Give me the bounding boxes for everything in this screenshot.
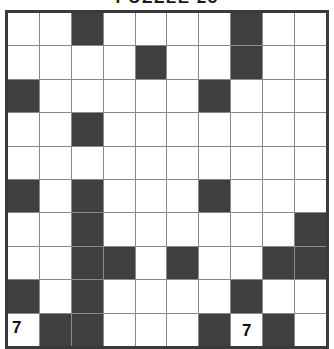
grid-cell-block: [231, 46, 262, 78]
grid-cell-empty[interactable]: [167, 80, 198, 112]
grid-cell-empty[interactable]: [263, 180, 294, 212]
grid-cell-empty[interactable]: [104, 113, 135, 145]
grid-cell-block: [72, 213, 103, 245]
grid-cell-empty[interactable]: [8, 213, 39, 245]
grid-cell-empty[interactable]: [136, 113, 167, 145]
grid-cell-empty[interactable]: [295, 113, 326, 145]
grid-cell-empty[interactable]: [295, 280, 326, 312]
grid-cell-empty[interactable]: [231, 247, 262, 279]
grid-cell-block: [8, 280, 39, 312]
grid-cell-empty[interactable]: [167, 147, 198, 179]
grid-cell-empty[interactable]: [263, 46, 294, 78]
grid-cell-block: [199, 80, 230, 112]
grid-cell-empty[interactable]: [295, 80, 326, 112]
grid-cell-empty[interactable]: [136, 180, 167, 212]
page-title: PUZZLE 25: [0, 0, 334, 8]
grid-cell-block: [72, 314, 103, 346]
grid-cell-empty[interactable]: [199, 213, 230, 245]
grid-cell-block: [136, 46, 167, 78]
grid-cell-empty[interactable]: [263, 213, 294, 245]
grid-cell-empty[interactable]: [295, 13, 326, 45]
grid-cell-empty[interactable]: [263, 280, 294, 312]
grid-cell-empty[interactable]: [136, 314, 167, 346]
grid-cell-empty[interactable]: [136, 247, 167, 279]
grid-cell-empty[interactable]: [72, 46, 103, 78]
grid-cell-empty[interactable]: [40, 147, 71, 179]
puzzle-grid: 77: [8, 13, 326, 346]
clue-number: 7: [231, 321, 262, 338]
grid-cell-empty[interactable]: [40, 46, 71, 78]
grid-cell-empty[interactable]: [136, 213, 167, 245]
grid-cell-empty[interactable]: [136, 280, 167, 312]
grid-cell-block: [72, 280, 103, 312]
grid-cell-empty[interactable]: [104, 46, 135, 78]
grid-cell-block: [8, 80, 39, 112]
grid-cell-empty[interactable]: [136, 13, 167, 45]
grid-cell-empty[interactable]: [104, 180, 135, 212]
grid-cell-empty[interactable]: [167, 213, 198, 245]
grid-cell-empty[interactable]: [40, 80, 71, 112]
grid-cell-empty[interactable]: [295, 180, 326, 212]
grid-cell-empty[interactable]: [167, 280, 198, 312]
grid-cell-empty[interactable]: [263, 80, 294, 112]
grid-cell-empty[interactable]: [104, 80, 135, 112]
grid-cell-empty[interactable]: [199, 280, 230, 312]
grid-cell-empty[interactable]: [72, 147, 103, 179]
grid-cell-empty[interactable]: [40, 247, 71, 279]
grid-cell-empty[interactable]: [40, 180, 71, 212]
grid-cell-empty[interactable]: [231, 180, 262, 212]
grid-cell-empty[interactable]: [167, 46, 198, 78]
grid-cell-empty[interactable]: [40, 280, 71, 312]
grid-cell-block: [40, 314, 71, 346]
grid-cell-block: [72, 113, 103, 145]
grid-cell-empty[interactable]: [8, 46, 39, 78]
grid-cell-empty[interactable]: 7: [8, 314, 39, 346]
grid-cell-block: [295, 213, 326, 245]
grid-cell-block: [263, 314, 294, 346]
grid-cell-empty[interactable]: [199, 113, 230, 145]
grid-cell-empty[interactable]: [199, 13, 230, 45]
grid-cell-block: [263, 247, 294, 279]
grid-cell-block: [295, 247, 326, 279]
grid-cell-block: [72, 247, 103, 279]
grid-cell-empty[interactable]: [295, 147, 326, 179]
grid-cell-empty[interactable]: [104, 280, 135, 312]
grid-cell-empty[interactable]: [231, 80, 262, 112]
grid-cell-empty[interactable]: [136, 147, 167, 179]
grid-cell-empty[interactable]: [199, 46, 230, 78]
grid-cell-empty[interactable]: [40, 213, 71, 245]
grid-cell-empty[interactable]: [104, 314, 135, 346]
grid-cell-block: [199, 180, 230, 212]
grid-cell-empty[interactable]: [8, 147, 39, 179]
grid-cell-empty[interactable]: [231, 113, 262, 145]
grid-cell-empty[interactable]: [295, 314, 326, 346]
grid-cell-block: [72, 13, 103, 45]
grid-cell-empty[interactable]: [40, 13, 71, 45]
grid-cell-empty[interactable]: [8, 113, 39, 145]
grid-cell-block: [199, 314, 230, 346]
grid-cell-empty[interactable]: [72, 80, 103, 112]
grid-cell-empty[interactable]: [167, 113, 198, 145]
grid-cell-empty[interactable]: [167, 180, 198, 212]
grid-cell-empty[interactable]: [231, 147, 262, 179]
grid-cell-empty[interactable]: 7: [231, 314, 262, 346]
grid-cell-empty[interactable]: [104, 13, 135, 45]
grid-cell-empty[interactable]: [136, 80, 167, 112]
grid-cell-empty[interactable]: [263, 113, 294, 145]
grid-cell-block: [231, 280, 262, 312]
grid-cell-empty[interactable]: [263, 147, 294, 179]
grid-cell-empty[interactable]: [199, 147, 230, 179]
grid-cell-empty[interactable]: [40, 113, 71, 145]
puzzle-grid-container: 77: [5, 10, 329, 349]
grid-cell-empty[interactable]: [199, 247, 230, 279]
grid-cell-empty[interactable]: [8, 247, 39, 279]
grid-cell-empty[interactable]: [167, 314, 198, 346]
grid-cell-empty[interactable]: [104, 213, 135, 245]
grid-cell-empty[interactable]: [104, 147, 135, 179]
grid-cell-block: [167, 247, 198, 279]
grid-cell-empty[interactable]: [167, 13, 198, 45]
grid-cell-empty[interactable]: [8, 13, 39, 45]
grid-cell-empty[interactable]: [295, 46, 326, 78]
grid-cell-empty[interactable]: [231, 213, 262, 245]
grid-cell-empty[interactable]: [263, 13, 294, 45]
